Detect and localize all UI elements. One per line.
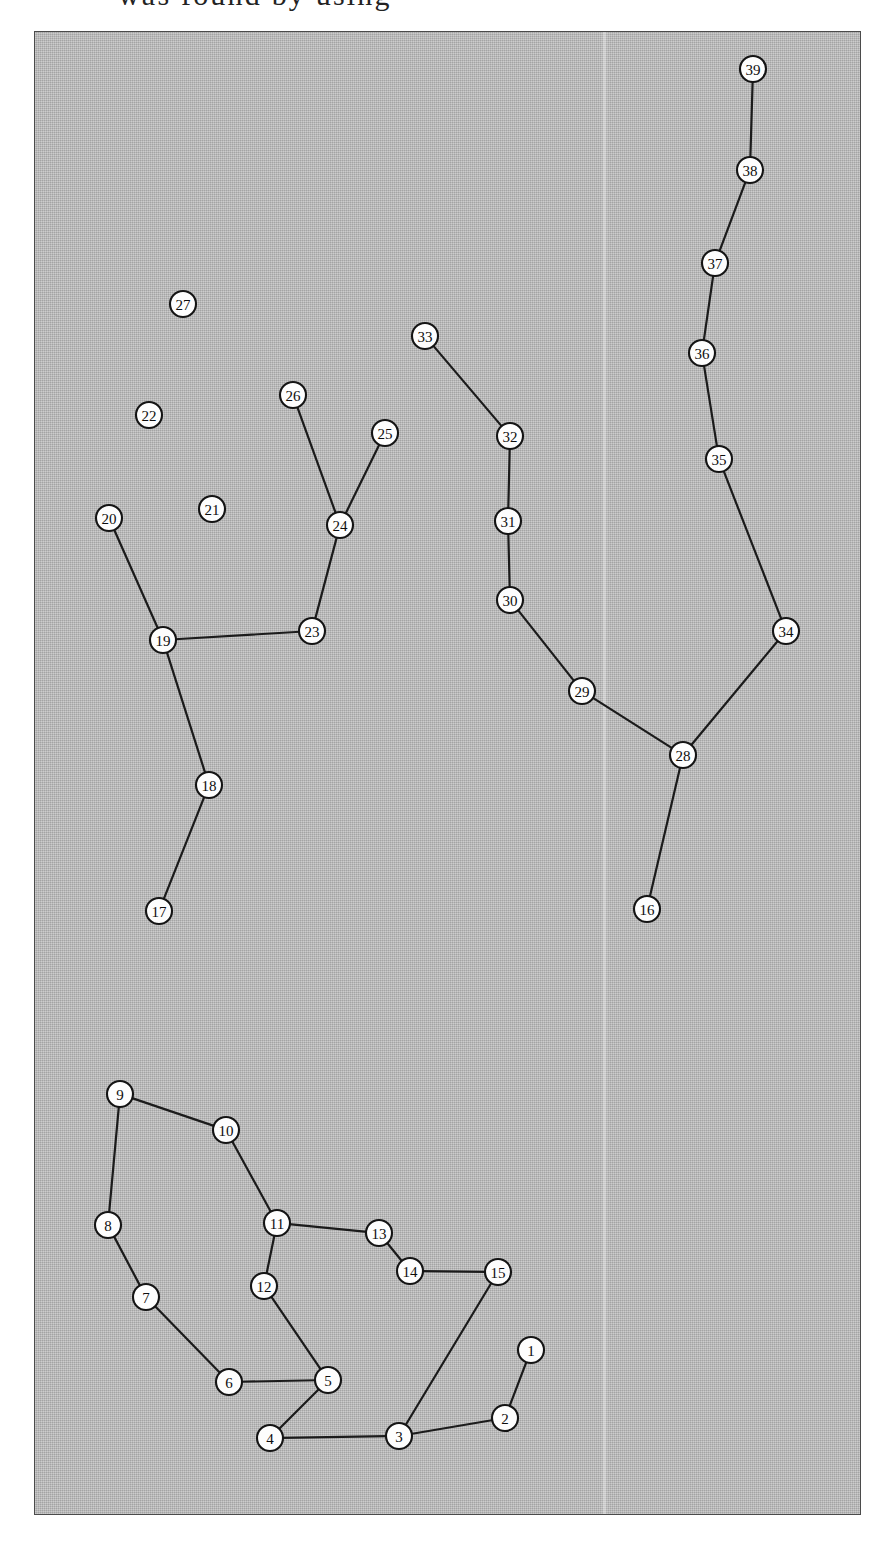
graph-canvas: 1234567891011121314151617181920212227232… <box>35 32 861 1515</box>
node-label: 21 <box>205 502 220 518</box>
node-label: 24 <box>333 518 349 534</box>
page-wrap: was found by using 123456789101112131415… <box>0 0 889 1554</box>
node-label: 35 <box>712 452 727 468</box>
graph-node[interactable]: 27 <box>170 291 196 317</box>
node-label: 36 <box>695 346 711 362</box>
graph-node[interactable]: 17 <box>146 898 172 924</box>
node-label: 31 <box>501 514 516 530</box>
node-label: 39 <box>746 62 761 78</box>
graph-node[interactable]: 1 <box>518 1337 544 1363</box>
node-label: 33 <box>418 329 433 345</box>
node-label: 19 <box>156 633 171 649</box>
graph-node[interactable]: 35 <box>706 446 732 472</box>
graph-edge <box>422 1271 486 1272</box>
node-label: 27 <box>176 297 192 313</box>
graph-node[interactable]: 7 <box>133 1284 159 1310</box>
graph-node[interactable]: 16 <box>634 896 660 922</box>
node-label: 15 <box>491 1265 506 1281</box>
graph-node[interactable]: 20 <box>96 505 122 531</box>
graph-node[interactable]: 10 <box>213 1117 239 1143</box>
node-label: 16 <box>640 902 656 918</box>
node-label: 14 <box>403 1264 419 1280</box>
node-label: 20 <box>102 511 117 527</box>
graph-edge <box>271 1296 321 1370</box>
clipped-caption-text: was found by using <box>118 0 392 12</box>
graph-node[interactable]: 8 <box>95 1212 121 1238</box>
graph-node[interactable]: 22 <box>136 402 162 428</box>
node-label: 38 <box>743 163 758 179</box>
graph-edge <box>723 470 781 620</box>
graph-node[interactable]: 24 <box>327 512 353 538</box>
graph-edge <box>405 1282 492 1425</box>
node-label: 8 <box>104 1218 112 1234</box>
node-label: 22 <box>142 408 157 424</box>
clipped-caption-strip: was found by using <box>0 0 889 26</box>
graph-node[interactable]: 2 <box>492 1405 518 1431</box>
graph-edge <box>232 1141 271 1213</box>
node-label: 30 <box>503 593 518 609</box>
graph-edge <box>154 1306 220 1374</box>
graph-edge <box>704 365 717 447</box>
graph-node[interactable]: 11 <box>264 1210 290 1236</box>
graph-node[interactable]: 30 <box>497 587 523 613</box>
node-label: 3 <box>395 1429 403 1445</box>
graph-edge <box>411 1420 493 1434</box>
node-label: 4 <box>266 1431 274 1447</box>
graph-node[interactable]: 31 <box>495 508 521 534</box>
graph-node[interactable]: 32 <box>497 423 523 449</box>
graph-edge <box>297 406 336 513</box>
graph-node[interactable]: 38 <box>737 157 763 183</box>
graph-edge <box>175 632 300 640</box>
graph-node[interactable]: 6 <box>216 1369 242 1395</box>
graph-node[interactable]: 15 <box>485 1259 511 1285</box>
graph-edge <box>650 767 681 898</box>
graph-node[interactable]: 19 <box>150 627 176 653</box>
graph-node[interactable]: 5 <box>315 1367 341 1393</box>
graph-edge <box>750 81 752 158</box>
graph-node[interactable]: 28 <box>670 742 696 768</box>
graph-node[interactable]: 13 <box>366 1220 392 1246</box>
graph-edge <box>131 1098 214 1126</box>
node-label: 2 <box>501 1411 509 1427</box>
graph-edge <box>114 529 158 629</box>
node-label: 6 <box>225 1375 233 1391</box>
graph-node[interactable]: 33 <box>412 323 438 349</box>
graph-node[interactable]: 23 <box>299 618 325 644</box>
graph-node[interactable]: 26 <box>280 382 306 408</box>
node-label: 32 <box>503 429 518 445</box>
graph-node[interactable]: 21 <box>199 496 225 522</box>
graph-edge <box>163 796 204 900</box>
node-label: 13 <box>372 1226 387 1242</box>
graph-node[interactable]: 14 <box>397 1258 423 1284</box>
graph-node[interactable]: 34 <box>773 618 799 644</box>
graph-edge <box>508 533 509 588</box>
graph-edge <box>278 1388 319 1429</box>
graph-node[interactable]: 36 <box>689 340 715 366</box>
node-label: 1 <box>527 1343 535 1359</box>
graph-edge <box>719 181 746 252</box>
node-label: 37 <box>708 256 724 272</box>
node-label: 26 <box>286 388 302 404</box>
graph-edge <box>433 345 502 427</box>
graph-node[interactable]: 37 <box>702 250 728 276</box>
graph-node[interactable]: 12 <box>251 1273 277 1299</box>
graph-edge <box>508 448 509 509</box>
graph-edge <box>517 609 574 681</box>
graph-node[interactable]: 3 <box>386 1423 412 1449</box>
graph-node[interactable]: 39 <box>740 56 766 82</box>
node-label: 28 <box>676 748 691 764</box>
graph-edge <box>282 1436 387 1438</box>
graph-node[interactable]: 9 <box>107 1081 133 1107</box>
graph-node[interactable]: 25 <box>372 420 398 446</box>
node-layer: 1234567891011121314151617181920212227232… <box>95 56 799 1451</box>
graph-node[interactable]: 4 <box>257 1425 283 1451</box>
graph-node[interactable]: 29 <box>569 678 595 704</box>
figure-frame: 1234567891011121314151617181920212227232… <box>34 31 861 1515</box>
graph-node[interactable]: 18 <box>196 772 222 798</box>
node-label: 12 <box>257 1279 272 1295</box>
node-label: 9 <box>116 1087 124 1103</box>
graph-edge <box>315 537 337 620</box>
graph-edge <box>241 1380 316 1382</box>
graph-edge <box>266 1235 274 1274</box>
node-label: 23 <box>305 624 320 640</box>
